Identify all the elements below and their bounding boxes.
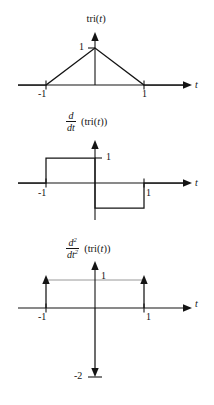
plot-3-x-axis-arrowhead	[183, 304, 192, 312]
plot-1-curve-tri	[18, 48, 183, 85]
plot-1-caption-text: tri(t)	[84, 14, 106, 25]
plot-1-x-axis-arrowhead	[183, 81, 192, 89]
plot-1-xtick-label-plus-1: 1	[142, 89, 147, 99]
plot-3-x-axis-label: t	[195, 299, 198, 309]
plot-3-impulse-plus-1-arrowhead	[140, 275, 147, 284]
plot-1-xtick-label-minus-1: -1	[38, 89, 46, 99]
figure-triangle-derivatives: tri(t) -1 1 1 t d dt (tri(t))	[0, 0, 214, 405]
plot-2-x-axis-arrowhead	[183, 179, 192, 187]
plot-3-caption-operand: (tri(t))	[82, 244, 111, 255]
plot-3-graph	[0, 258, 214, 398]
plot-2-caption-operand: (tri(t))	[78, 117, 107, 128]
plot-2-x-axis-label: t	[195, 178, 198, 188]
plot-2-caption-denominator: dt	[66, 121, 76, 134]
plot-2-y-axis-arrowhead	[91, 140, 98, 149]
plot-1-y-axis-arrowhead	[91, 32, 98, 41]
plot-3-impulse-minus-1-arrowhead	[42, 275, 49, 284]
plot-3-ytick-label-1: 1	[101, 271, 106, 281]
plot-2-caption-numerator: d	[66, 111, 76, 122]
plot-3-impulse-origin-arrowhead	[91, 368, 98, 377]
plot-1-x-axis-label: t	[195, 80, 198, 90]
plot-1-graph	[0, 27, 214, 105]
plot-3-xtick-label-plus-1: 1	[146, 312, 151, 322]
plot-2-caption: d dt (tri(t))	[66, 111, 107, 134]
plot-3-caption-numerator: d2	[66, 238, 79, 249]
plot-3-xtick-label-minus-1: -1	[38, 312, 46, 322]
plot-2-xtick-label-minus-1: -1	[38, 188, 46, 198]
plot-1-ytick-label-1: 1	[79, 42, 84, 52]
plot-2-caption-fraction: d dt	[66, 111, 76, 134]
plot-2-ytick-label-1: 1	[106, 152, 111, 162]
plot-3-ytick-label-minus-2: -2	[74, 371, 82, 381]
plot-2-xtick-label-plus-1: 1	[146, 188, 151, 198]
plot-3-y-axis-arrowhead	[91, 261, 98, 270]
plot-1-caption: tri(t)	[84, 14, 106, 25]
